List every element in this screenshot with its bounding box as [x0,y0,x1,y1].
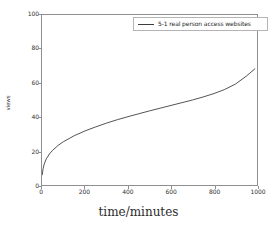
x-tick-label: 0 [21,189,61,195]
x-axis-title: time/minutes [0,205,277,219]
legend-line-swatch-icon [138,24,154,25]
chart-figure: 100 80 60 40 20 0 0 200 400 600 800 1000… [0,0,277,235]
x-tick-mark [128,186,129,189]
x-tick-label: 800 [195,189,235,195]
x-tick-mark [258,186,259,189]
y-axis-title: views [5,95,11,110]
x-tick-label: 400 [108,189,148,195]
x-tick-mark [215,186,216,189]
x-tick-mark [171,186,172,189]
data-curve-svg [42,15,257,185]
y-tick-label: 20 [9,149,39,155]
legend-entry-label: 5-1 real person access websites [158,21,251,27]
y-tick-label: 40 [9,114,39,120]
plot-area [41,14,258,186]
x-tick-label: 200 [64,189,104,195]
x-tick-label: 1000 [238,189,277,195]
chart-legend: 5-1 real person access websites [133,17,268,31]
x-tick-mark [41,186,42,189]
x-tick-mark [84,186,85,189]
x-tick-label: 600 [151,189,191,195]
y-tick-label: 80 [9,45,39,51]
series-line-views [42,69,255,175]
y-tick-label: 60 [9,80,39,86]
y-tick-label: 100 [9,11,39,17]
